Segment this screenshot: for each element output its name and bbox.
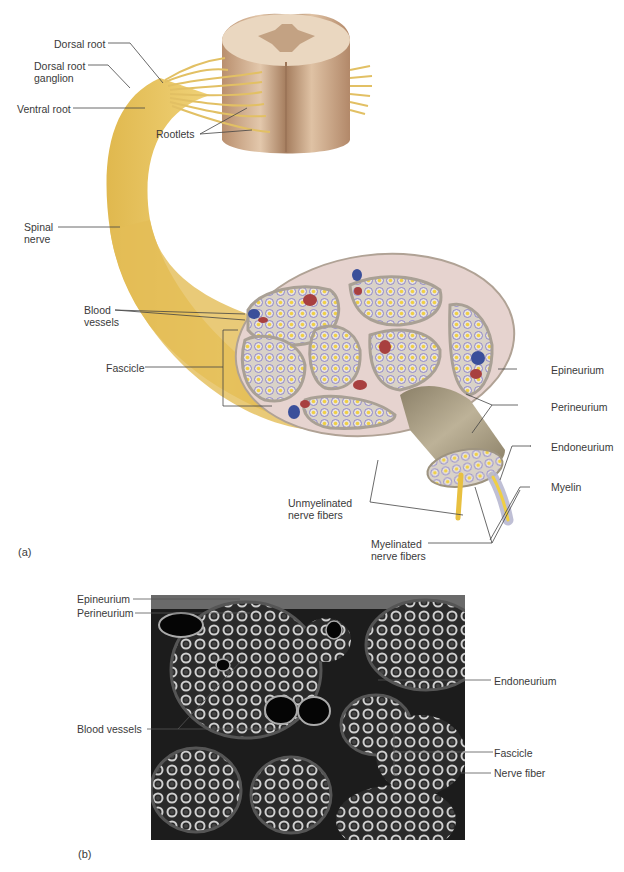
label-b-fascicle: Fascicle: [494, 747, 533, 759]
label-b-blood-vessels: Blood vessels: [77, 723, 142, 735]
label-b-epineurium: Epineurium: [77, 593, 130, 605]
label-b-nerve-fiber: Nerve fiber: [494, 767, 545, 779]
panel-b-label: (b): [78, 848, 91, 860]
label-b-endoneurium: Endoneurium: [494, 675, 556, 687]
panel-b-leader-lines: [0, 0, 624, 872]
label-b-perineurium: Perineurium: [77, 607, 134, 619]
